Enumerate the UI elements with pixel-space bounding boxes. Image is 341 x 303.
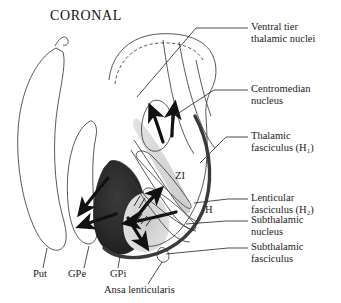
label-subthalamic-nucleus: Subthalamic nucleus — [251, 214, 304, 238]
label-ansa-lenticularis: Ansa lenticularis — [104, 284, 175, 296]
gpe-outline — [67, 121, 97, 244]
leader-subthalamic-fasc — [166, 248, 248, 254]
label-forel-field-h: H — [205, 204, 213, 216]
leader-gpe — [84, 246, 89, 268]
label-line-1: Centromedian — [251, 83, 310, 94]
thalamic-subdivision-a — [163, 40, 194, 154]
thalamic-subdivision-c — [196, 60, 211, 116]
label-line-2: fasciculus — [251, 253, 304, 265]
label-putamen: Put — [33, 268, 47, 280]
label-zona-incerta: ZI — [175, 170, 185, 182]
label-gpi: GPi — [110, 268, 126, 280]
anatomy-outlines — [18, 34, 216, 262]
label-ventral-tier-thalamic-nuclei: Ventral tier thalamic nuclei — [251, 21, 315, 45]
label-line-1: Subthalamic — [251, 241, 304, 252]
label-subthalamic-fasciculus: Subthalamic fasciculus — [251, 241, 304, 265]
capsule-tip-line — [55, 37, 68, 46]
label-line-1: Thalamic — [251, 130, 291, 141]
arrow-to-centromedian — [172, 111, 174, 136]
label-thalamic-fasciculus: Thalamic fasciculus (H₁) — [251, 130, 314, 154]
arrow-to-ventral-tier — [153, 113, 163, 142]
label-line-2: thalamic nuclei — [251, 33, 315, 45]
label-line-1: Ventral tier — [251, 21, 298, 32]
thalamic-subdivision-b — [179, 42, 215, 148]
leader-gpi — [118, 256, 120, 268]
leader-put — [43, 248, 47, 268]
putamen-outline — [18, 48, 66, 250]
label-gpe: GPe — [68, 268, 86, 280]
label-lenticular-fasciculus: Lenticular fasciculus (H₂) — [251, 192, 314, 216]
leader-lenticular-fasc — [194, 199, 248, 203]
figure-title: CORONAL — [50, 8, 122, 24]
label-line-2: nucleus — [251, 226, 304, 238]
thalamus-dashed-boundary — [115, 43, 203, 84]
label-line-1: Lenticular — [251, 192, 294, 203]
label-line-2: nucleus — [251, 95, 310, 107]
label-line-2: fasciculus (H₁) — [251, 142, 314, 154]
label-centromedian-nucleus: Centromedian nucleus — [251, 83, 310, 107]
label-line-1: Subthalamic — [251, 214, 304, 225]
leader-ansa — [148, 262, 162, 284]
coronal-basal-ganglia-diagram: CORONAL Ventral tier thalamic nuclei Cen… — [0, 0, 341, 303]
